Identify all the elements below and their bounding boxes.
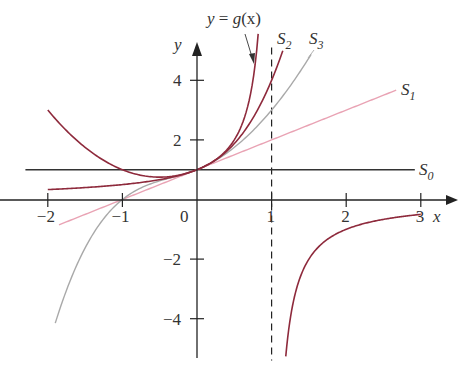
x-axis-label: x bbox=[432, 207, 441, 226]
label-s2: S2 bbox=[277, 29, 292, 52]
label-s3-pointer bbox=[308, 50, 314, 58]
taylor-polynomials-figure: −2−1012342−2−4 x y y = g(x) S2 S3 S1 S0 bbox=[0, 0, 473, 386]
label-s0: S0 bbox=[419, 160, 434, 183]
g-annotation-arrow-icon bbox=[249, 53, 255, 64]
x-tick-label: 1 bbox=[267, 207, 276, 226]
y-tick-label: 4 bbox=[173, 71, 182, 90]
label-s1: S1 bbox=[401, 80, 416, 103]
curve-s2 bbox=[48, 51, 283, 177]
g-annotation: y = g(x) bbox=[205, 9, 261, 28]
x-tick-label: 0 bbox=[180, 207, 189, 226]
curve-g-left-branch bbox=[48, 34, 258, 190]
curve-s3 bbox=[55, 54, 311, 323]
y-axis-label: y bbox=[172, 35, 182, 54]
y-tick-label: −2 bbox=[163, 250, 181, 269]
g-annotation-pointer bbox=[245, 34, 252, 57]
label-s3: S3 bbox=[309, 29, 324, 52]
x-tick-label: −2 bbox=[37, 207, 55, 226]
x-tick-label: −1 bbox=[111, 207, 129, 226]
y-tick-label: −4 bbox=[163, 310, 182, 329]
y-axis-arrow-icon bbox=[192, 42, 202, 56]
y-tick-label: 2 bbox=[173, 131, 182, 150]
x-axis-arrow-icon bbox=[446, 195, 458, 205]
x-tick-label: 3 bbox=[416, 207, 425, 226]
curve-g-right-branch bbox=[286, 214, 421, 356]
x-tick-label: 2 bbox=[341, 207, 350, 226]
